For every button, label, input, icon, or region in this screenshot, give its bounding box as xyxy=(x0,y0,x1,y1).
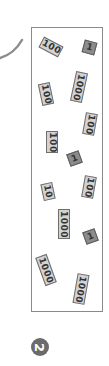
tile-label: 10 xyxy=(42,183,54,198)
tile-label: 1000 xyxy=(60,210,69,237)
tile-label: 1 xyxy=(86,231,95,242)
tile-label: 100 xyxy=(39,83,52,105)
tile-label: 100 xyxy=(84,113,96,135)
tile-label: 100 xyxy=(83,176,95,198)
tile-label: 1 xyxy=(85,42,93,52)
tile-label: 100 xyxy=(48,132,57,152)
tile-label: 1 xyxy=(70,153,79,164)
step-number-badge: 2 xyxy=(31,338,49,356)
value-tile-100: 100 xyxy=(46,131,58,153)
value-tile-1000: 1000 xyxy=(58,209,70,239)
badge-label: 2 xyxy=(32,342,47,351)
curved-arrow-stroke xyxy=(0,0,30,70)
unit-tile-1: 1 xyxy=(81,39,97,55)
